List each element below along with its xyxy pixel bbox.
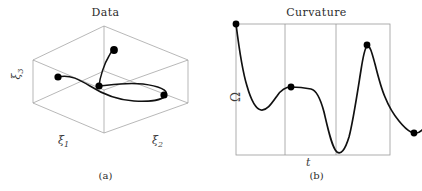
panel-b-caption: (b) bbox=[211, 170, 422, 181]
panel-b-curvature: Curvature Ω t (b) bbox=[211, 0, 422, 191]
data-point-1 bbox=[54, 73, 61, 80]
panel-a-plot-svg bbox=[0, 0, 211, 191]
axis-label-xi2: ξ2 bbox=[152, 134, 163, 149]
curve-marker-3 bbox=[364, 42, 371, 49]
axis-label-t: t bbox=[306, 156, 310, 169]
curve-marker-4 bbox=[411, 130, 418, 137]
data-markers bbox=[54, 46, 167, 99]
axis-label-xi1: ξ1 bbox=[58, 134, 69, 149]
axis-label-omega: Ω bbox=[229, 92, 243, 102]
data-point-2 bbox=[95, 82, 102, 89]
panel-a-caption: (a) bbox=[0, 170, 211, 181]
figure-container: Data bbox=[0, 0, 422, 191]
box-top-face bbox=[33, 26, 188, 90]
curvature-curve bbox=[236, 24, 422, 153]
box-bottom-face bbox=[33, 71, 188, 133]
panel-a-data: Data bbox=[0, 0, 211, 191]
data-curve bbox=[58, 50, 166, 101]
data-point-3 bbox=[110, 46, 118, 54]
curve-marker-2 bbox=[288, 84, 295, 91]
data-point-4 bbox=[160, 91, 167, 98]
curve-marker-1 bbox=[233, 21, 240, 28]
